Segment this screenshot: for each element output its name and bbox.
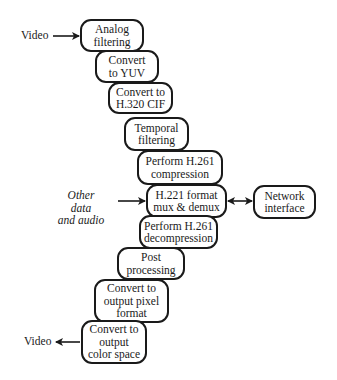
video-output-label: Video <box>24 335 51 348</box>
node-network-interface: Network interface <box>253 185 316 219</box>
node-temporal-filtering: Temporal filtering <box>124 117 189 151</box>
node-analog-filtering: Analog filtering <box>80 19 144 52</box>
node-h261-decompression: Perform H.261 decompression <box>139 215 218 249</box>
node-convert-cif: Convert to H.320 CIF <box>108 82 173 114</box>
node-h221-mux: H.221 format mux & demux <box>146 184 227 218</box>
node-h261-compression: Perform H.261 compression <box>137 150 223 185</box>
node-convert-yuv: Convert to YUV <box>95 50 159 83</box>
other-data-label: Other data and audio <box>56 189 106 227</box>
node-output-color-space: Convert to output color space <box>81 320 147 364</box>
node-output-pixel-format: Convert to output pixel format <box>94 279 169 323</box>
video-input-label: Video <box>21 29 48 42</box>
node-post-processing: Post processing <box>117 247 185 280</box>
